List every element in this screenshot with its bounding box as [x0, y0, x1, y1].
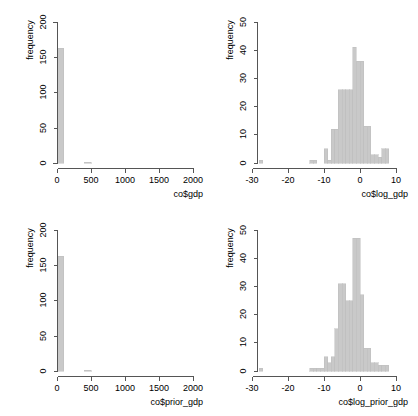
plot-area-gdp	[53, 23, 194, 173]
histogram-bar	[331, 129, 335, 163]
panel-prior-gdp: 200 150 100 50 0 0 500 1000 1500 2000 fr…	[0, 208, 209, 416]
histogram-bar	[360, 61, 364, 163]
histogram-bar	[364, 126, 368, 163]
histogram-bar	[382, 365, 386, 371]
histogram-bar	[310, 368, 314, 371]
plot-area-prior-gdp	[54, 231, 194, 381]
x-tick-label: -30	[245, 383, 258, 393]
histogram-bar	[353, 238, 357, 371]
y-tick-label: 50	[38, 123, 48, 133]
x-axis-title-log-prior-gdp: co$log_prior_gdp	[338, 397, 408, 407]
x-tick-label: -10	[317, 175, 330, 185]
histogram-bar	[84, 162, 91, 163]
x-tick-label: 0	[54, 383, 59, 393]
histogram-bar	[324, 149, 328, 163]
y-tick-label: 0	[38, 160, 48, 165]
x-tick-label: 500	[83, 175, 98, 185]
histogram-bar	[374, 155, 378, 163]
y-tick-label: 50	[238, 17, 248, 27]
x-tick-labels-gdp: 0 500 1000 1500 2000	[54, 175, 203, 185]
y-tick-label: 40	[238, 45, 248, 55]
panel-gdp: 200 150 100 50 0 0 500 1000 1500 2000 fr…	[0, 0, 209, 208]
histogram-bar	[342, 284, 346, 371]
y-axis-title-log-prior-gdp: frequency	[225, 228, 235, 268]
x-axis-title-gdp: co$gdp	[173, 189, 203, 199]
y-tick-label: 10	[238, 129, 248, 139]
histogram-grid: 200 150 100 50 0 0 500 1000 1500 2000 fr…	[0, 0, 418, 416]
y-tick-label: 200	[38, 14, 48, 29]
chart-hist-log-gdp: 50 40 30 20 10 0 -30 -20 -10 0 10 freque…	[209, 0, 418, 208]
x-tick-label: 1500	[149, 383, 169, 393]
x-tick-label: 10	[391, 383, 401, 393]
x-axis-line-prior-gdp	[58, 377, 194, 381]
histogram-bar	[310, 160, 314, 163]
x-tick-label: 0	[54, 175, 59, 185]
x-tick-label: 500	[83, 383, 98, 393]
plot-area-log-prior-gdp	[253, 231, 397, 381]
y-axis-title-log-gdp: frequency	[225, 20, 235, 60]
x-tick-label: 2000	[183, 175, 203, 185]
x-tick-labels-log-prior-gdp: -30 -20 -10 0 10	[245, 383, 401, 393]
histogram-bar	[371, 363, 375, 371]
x-axis-line-log-prior-gdp	[253, 377, 397, 381]
y-tick-label: 30	[238, 281, 248, 291]
y-tick-label: 0	[238, 368, 248, 373]
bars-log-prior-gdp	[259, 238, 389, 371]
x-axis-title-prior-gdp: co$prior_gdp	[150, 397, 203, 407]
histogram-bar	[346, 90, 350, 163]
histogram-bar	[367, 348, 371, 371]
x-tick-label: -10	[317, 383, 330, 393]
histogram-bar	[259, 160, 263, 163]
histogram-bar	[385, 365, 389, 371]
x-axis-line-gdp	[58, 169, 194, 173]
histogram-bar	[367, 126, 371, 163]
x-tick-label: -30	[245, 175, 258, 185]
x-tick-label: 0	[357, 175, 362, 185]
chart-hist-prior-gdp: 200 150 100 50 0 0 500 1000 1500 2000 fr…	[0, 208, 209, 416]
y-tick-label: 20	[238, 309, 248, 319]
histogram-bar	[342, 90, 346, 163]
histogram-bar	[374, 363, 378, 371]
histogram-bar	[378, 365, 382, 371]
bars-log-gdp	[259, 47, 389, 163]
y-tick-label: 20	[238, 101, 248, 111]
histogram-bar	[338, 284, 342, 371]
histogram-bar	[385, 149, 389, 163]
y-tick-label: 40	[238, 253, 248, 263]
histogram-bar	[364, 348, 368, 371]
histogram-bar	[338, 90, 342, 163]
histogram-bar	[328, 160, 332, 163]
histogram-bar	[382, 149, 386, 163]
y-tick-label: 50	[38, 331, 48, 341]
histogram-bar	[353, 47, 357, 163]
histogram-bar	[335, 129, 339, 163]
panel-log-gdp: 50 40 30 20 10 0 -30 -20 -10 0 10 freque…	[209, 0, 418, 208]
x-tick-labels-log-gdp: -30 -20 -10 0 10	[245, 175, 401, 185]
x-axis-line-log-gdp	[253, 169, 397, 173]
bars-prior-gdp	[57, 256, 91, 371]
y-tick-label: 150	[38, 257, 48, 272]
y-axis-title-gdp: frequency	[25, 20, 35, 60]
y-axis-title-prior-gdp: frequency	[25, 228, 35, 268]
y-tick-labels-gdp: 200 150 100 50 0	[38, 14, 48, 165]
histogram-bar	[356, 61, 360, 163]
panel-log-prior-gdp: 50 40 30 20 10 0 -30 -20 -10 0 10 freque…	[209, 208, 418, 416]
x-tick-label: -20	[281, 383, 294, 393]
bars-gdp	[57, 48, 91, 163]
histogram-bar	[324, 357, 328, 371]
x-tick-label: 1500	[149, 175, 169, 185]
x-axis-title-log-gdp: co$log_gdp	[361, 189, 408, 199]
y-tick-labels-log-prior-gdp: 50 40 30 20 10 0	[238, 225, 248, 374]
histogram-bar	[371, 155, 375, 163]
chart-hist-log-prior-gdp: 50 40 30 20 10 0 -30 -20 -10 0 10 freque…	[209, 208, 418, 416]
x-tick-label: 1000	[115, 383, 135, 393]
histogram-bar	[313, 160, 317, 163]
y-tick-label: 10	[238, 337, 248, 347]
y-tick-label: 200	[38, 222, 48, 237]
y-tick-label: 100	[38, 84, 48, 99]
chart-hist-gdp: 200 150 100 50 0 0 500 1000 1500 2000 fr…	[0, 0, 209, 208]
x-tick-label: 1000	[115, 175, 135, 185]
y-tick-label: 30	[238, 73, 248, 83]
plot-area-log-gdp	[253, 23, 397, 173]
histogram-bar	[313, 368, 317, 371]
